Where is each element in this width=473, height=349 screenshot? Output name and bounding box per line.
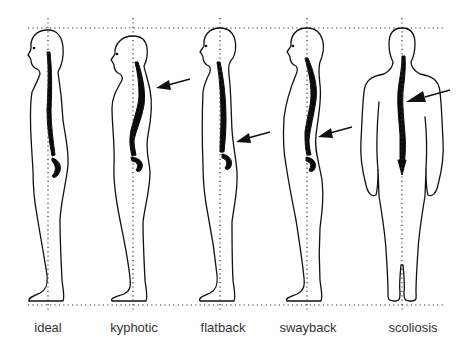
eye <box>205 45 208 48</box>
eye <box>33 47 36 50</box>
label-swayback: swayback <box>279 320 336 335</box>
label-kyphotic: kyphotic <box>110 320 158 335</box>
label-flatback: flatback <box>201 320 246 335</box>
left-arm-line <box>377 102 379 170</box>
arrow-kyphotic <box>156 79 190 90</box>
spine <box>130 62 145 156</box>
figure-ideal <box>28 18 68 310</box>
label-scoliosis: scoliosis <box>388 320 437 335</box>
figure-flatback <box>200 18 270 310</box>
body-outline <box>111 36 151 301</box>
spine <box>217 62 226 152</box>
eye <box>292 45 295 48</box>
figure-swayback <box>283 18 352 310</box>
arrow-scoliosis <box>406 90 450 102</box>
sacrum <box>52 158 60 177</box>
label-ideal: ideal <box>34 320 61 335</box>
eye <box>116 53 119 56</box>
figure-kyphotic <box>111 18 190 310</box>
posture-diagram <box>0 0 473 349</box>
sacrum <box>222 154 232 170</box>
figure-scoliosis <box>361 18 450 310</box>
arrow-flatback <box>236 132 270 143</box>
right-arm-line <box>425 117 427 170</box>
body-outline <box>283 28 323 301</box>
arrow-swayback <box>318 127 352 138</box>
